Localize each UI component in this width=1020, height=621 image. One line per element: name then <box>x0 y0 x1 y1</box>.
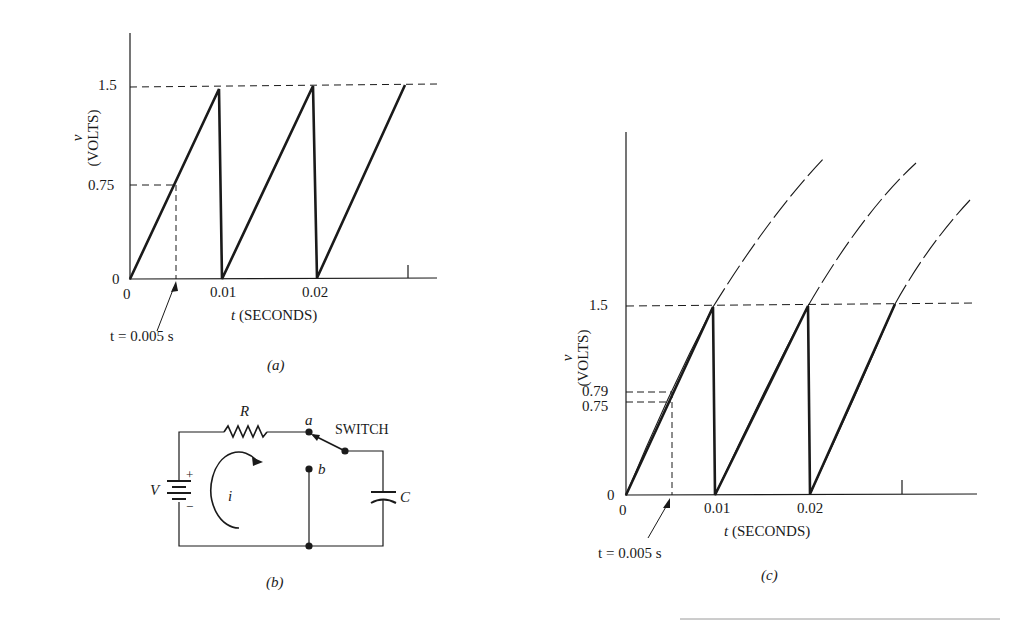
chart-c-exp-curve-1-cont <box>713 158 824 307</box>
chart-a-x-axis-label: t (SECONDS) <box>231 308 317 323</box>
chart-a-ytick-0: 0 <box>112 272 120 287</box>
chart-c-xtick-0.01: 0.01 <box>704 501 730 516</box>
chart-c-xlabel-unit: (SECONDS) <box>732 523 810 539</box>
chart-a-ytick-0.75: 0.75 <box>88 178 114 193</box>
circuit-label-r: R <box>240 404 249 419</box>
chart-c-annotation-arrow <box>648 505 667 538</box>
circuit-caption: (b) <box>266 575 284 590</box>
chart-a-ylabel-var: v <box>69 135 85 142</box>
chart-a-ref-1.5 <box>130 84 437 87</box>
current-arrowhead-icon <box>252 457 263 466</box>
chart-c-ytick-0: 0 <box>607 488 615 503</box>
chart-a <box>130 33 437 331</box>
circuit-label-a: a <box>305 413 313 428</box>
chart-a-xtick-0: 0 <box>123 287 131 302</box>
chart-a-annotation: t = 0.005 s <box>110 329 173 344</box>
chart-c-exp-curve-2-cont <box>808 163 916 306</box>
figure-graphics <box>0 0 1020 621</box>
resistor-icon <box>224 426 267 437</box>
arrowhead-icon <box>171 281 178 292</box>
chart-c-xtick-0.02: 0.02 <box>797 501 823 516</box>
current-arrow-icon <box>211 452 257 528</box>
chart-c-ytick-0.75: 0.75 <box>582 399 608 414</box>
switch-arrow-icon <box>311 434 320 441</box>
chart-c-ref-1.5 <box>626 303 977 306</box>
chart-c-x-axis-label: t (SECONDS) <box>724 524 810 539</box>
chart-c-xlabel-var: t <box>724 523 728 539</box>
chart-a-xtick-0.01: 0.01 <box>210 285 236 300</box>
chart-a-sawtooth <box>130 85 405 279</box>
chart-c-xtick-0: 0 <box>619 503 627 518</box>
chart-a-xtick-0.02: 0.02 <box>302 285 328 300</box>
circuit-label-switch: SWITCH <box>335 423 389 437</box>
circuit-label-v: V <box>150 483 159 498</box>
chart-c-caption: (c) <box>761 568 778 583</box>
chart-c-ylabel-var: v <box>559 355 575 362</box>
chart-c-annotation: t = 0.005 s <box>598 546 661 561</box>
battery-icon <box>167 481 191 499</box>
chart-a-ytick-1.5: 1.5 <box>98 78 117 93</box>
wire-right <box>345 451 383 492</box>
wire-right-bottom <box>179 500 383 546</box>
chart-a-annotation-arrow <box>157 287 174 331</box>
chart-c <box>626 132 977 538</box>
chart-a-y-axis-label: v (VOLTS) <box>70 88 106 188</box>
circuit-label-i: i <box>228 489 232 504</box>
chart-c-ylabel-unit: (VOLTS) <box>575 330 591 387</box>
chart-a-caption: (a) <box>267 358 285 373</box>
chart-c-ytick-0.79: 0.79 <box>582 384 608 399</box>
bottom-junction-dot <box>306 543 312 549</box>
chart-c-x-axis <box>626 494 977 495</box>
circuit-label-b: b <box>318 462 326 477</box>
chart-c-exp-curve-3-cont <box>895 200 970 304</box>
circuit-label-plus: + <box>186 468 193 481</box>
chart-a-xlabel-unit: (SECONDS) <box>239 307 317 323</box>
circuit-label-minus: − <box>186 500 193 513</box>
chart-a-ylabel-unit: (VOLTS) <box>85 110 101 167</box>
arrowhead-icon <box>663 498 670 508</box>
circuit-label-c: C <box>400 490 410 505</box>
chart-a-xlabel-var: t <box>231 307 235 323</box>
chart-c-ytick-1.5: 1.5 <box>589 298 608 313</box>
circuit-b <box>167 426 396 549</box>
